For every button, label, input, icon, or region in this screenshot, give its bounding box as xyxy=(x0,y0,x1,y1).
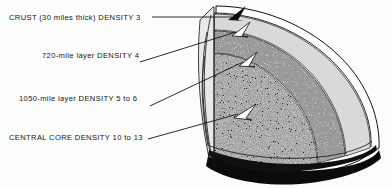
label-1050-mile-layer: 1050-mile layer DENSITY 5 to 6 xyxy=(19,94,137,103)
earth-cutaway-figure: CRUST (30 miles thick) DENSITY 3 720-mil… xyxy=(0,0,392,188)
label-central-core: CENTRAL CORE DENSITY 10 to 13 xyxy=(9,133,143,142)
label-crust: CRUST (30 miles thick) DENSITY 3 xyxy=(9,13,141,22)
globe-body xyxy=(198,6,381,185)
cut-face-left xyxy=(198,7,214,165)
label-720-mile-layer: 720-mile layer DENSITY 4 xyxy=(42,51,139,60)
